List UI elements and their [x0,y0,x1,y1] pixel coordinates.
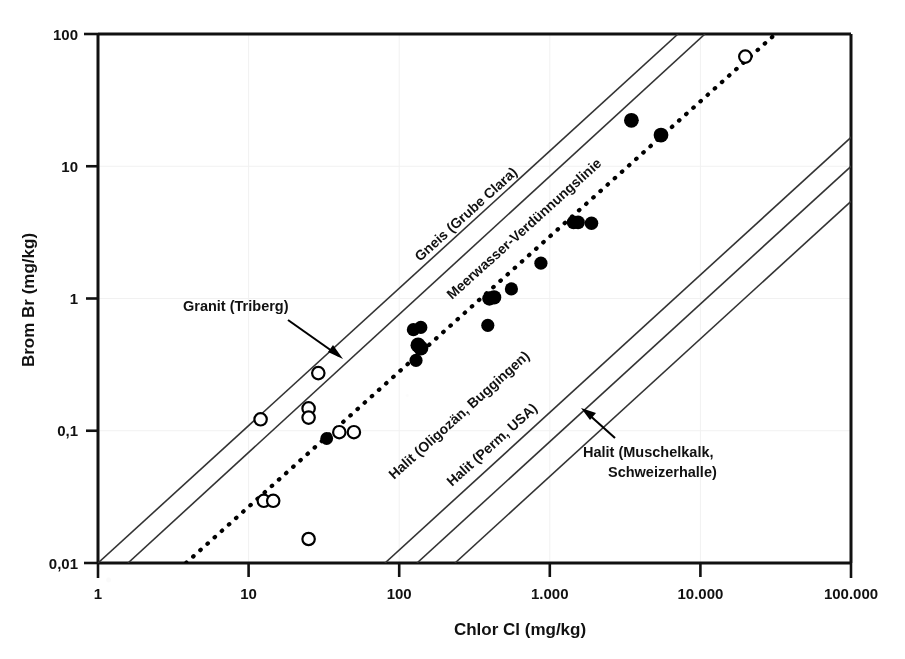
data-point-open [254,413,266,425]
chart-figure: 100 10 1 0,1 0,01 1 10 100 1.000 10.000 … [0,0,905,659]
x-tick-label-1: 1 [94,585,102,602]
label-halit-muschelkalk-line2: Schweizerhalle) [608,464,717,480]
y-tick-label-1: 1 [70,290,78,307]
x-tick-label-100: 100 [387,585,412,602]
data-point-filled [414,321,427,334]
figure-background [0,0,905,659]
data-point-filled [413,340,428,355]
y-axis-title: Brom Br (mg/kg) [19,233,38,367]
data-point-filled [409,354,422,367]
y-tick-label-100: 100 [53,26,78,43]
data-point-open [333,426,345,438]
label-halit-muschelkalk-line1: Halit (Muschelkalk, [583,444,714,460]
y-tick-label-10: 10 [61,158,78,175]
x-tick-label-10: 10 [240,585,257,602]
data-point-filled [505,282,518,295]
x-axis-title: Chlor Cl (mg/kg) [454,620,586,639]
label-granit: Granit (Triberg) [183,298,289,314]
x-tick-label-10000: 10.000 [677,585,723,602]
data-point-filled [585,216,599,230]
data-point-filled [320,432,333,445]
scatter-plot-svg: 100 10 1 0,1 0,01 1 10 100 1.000 10.000 … [0,0,905,659]
x-tick-label-1000: 1.000 [531,585,569,602]
data-point-filled [534,257,547,270]
x-tick-label-100000: 100.000 [824,585,878,602]
data-point-open [302,411,314,423]
data-point-open [267,495,279,507]
data-point-open [302,533,314,545]
data-point-filled [481,319,494,332]
data-point-filled [487,290,501,304]
data-point-open [348,426,360,438]
data-point-filled [624,113,639,128]
data-point-filled [654,128,669,143]
y-tick-label-0-01: 0,01 [49,555,78,572]
y-tick-label-0-1: 0,1 [57,422,78,439]
data-point-open [739,50,751,62]
data-point-filled [571,216,585,230]
data-point-open [312,367,324,379]
